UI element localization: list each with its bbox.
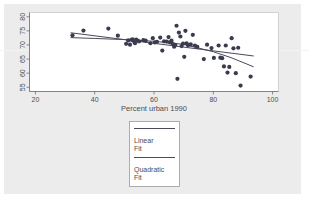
data-point	[212, 56, 216, 60]
data-point	[151, 36, 155, 40]
data-point	[209, 46, 213, 50]
y-tick-label: 80	[20, 13, 27, 21]
x-tick-label: 100	[267, 96, 279, 103]
x-tick-label: 40	[91, 96, 99, 103]
data-point	[234, 71, 238, 75]
data-point	[191, 33, 195, 37]
legend-label-quadratic-fit-line2: Fit	[134, 174, 142, 181]
data-point	[181, 41, 185, 45]
data-point	[128, 43, 132, 47]
data-point	[158, 36, 162, 40]
data-point	[182, 55, 186, 59]
x-tick-label: 20	[32, 96, 40, 103]
data-point	[174, 24, 178, 28]
x-tick-label: 60	[150, 96, 158, 103]
data-point	[217, 43, 221, 47]
scatter-plot: 556065707580 20406080100 Percent urban 1…	[0, 0, 309, 216]
data-point	[70, 33, 74, 37]
data-point	[238, 83, 242, 87]
data-point	[160, 48, 164, 52]
data-point	[137, 39, 141, 43]
data-point	[249, 74, 253, 78]
plot-panel	[30, 13, 279, 92]
data-point	[222, 64, 226, 68]
data-point	[205, 43, 209, 47]
data-point	[177, 30, 181, 34]
data-point	[173, 43, 177, 47]
y-tick-label: 75	[20, 27, 27, 35]
legend-label-linear-fit-line1: Linear	[134, 137, 154, 144]
data-point	[227, 65, 231, 69]
y-tick-label: 60	[20, 69, 27, 77]
data-point	[236, 46, 240, 50]
data-point	[224, 43, 228, 47]
legend-label-linear-fit-line2: Fit	[134, 145, 142, 152]
data-point	[116, 34, 120, 38]
x-tick-label: 80	[209, 96, 217, 103]
data-point	[230, 36, 234, 40]
data-point	[148, 41, 152, 45]
y-axis-ticks: 556065707580	[20, 13, 30, 91]
y-tick-label: 65	[20, 55, 27, 63]
legend: Linear Fit Quadratic Fit	[130, 122, 180, 187]
y-tick-label: 70	[20, 41, 27, 49]
data-point	[202, 57, 206, 61]
x-axis-title: Percent urban 1990	[121, 104, 187, 113]
data-point	[144, 39, 148, 43]
data-point	[183, 29, 187, 33]
data-point	[189, 42, 193, 46]
data-point	[106, 26, 110, 30]
data-point	[178, 34, 182, 38]
data-point	[220, 56, 224, 60]
x-axis-ticks: 20406080100	[32, 92, 279, 104]
data-point	[166, 35, 170, 39]
y-tick-label: 55	[20, 83, 27, 91]
legend-label-quadratic-fit-line1: Quadratic	[134, 166, 165, 174]
data-point	[225, 71, 229, 75]
chart-figure: 556065707580 20406080100 Percent urban 1…	[0, 0, 309, 216]
data-point	[195, 45, 199, 49]
data-point	[231, 46, 235, 50]
data-point	[81, 28, 85, 32]
data-point	[155, 40, 159, 44]
data-point	[175, 77, 179, 81]
